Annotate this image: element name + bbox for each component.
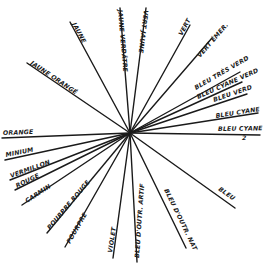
label-bleu-d-outr-nat: BLEU D'OUTR. NAT [163,187,199,252]
label-bleu: BLEU [217,185,236,201]
ray-lines [2,8,260,262]
label-pourpre: POURPRE [65,211,89,245]
label-pourpre-rouge: POURPRE ROUGE [45,178,91,231]
label-orange: ORANGE [3,128,34,136]
label-bleu-cyane-2: BLEU CYANE [218,124,263,132]
label-carmin: CARMIN [24,182,53,204]
label-vert-jaune: VERT JAUNE [137,10,150,54]
ray-bleu-cyane-2 [130,133,260,135]
ray-violet [113,133,130,258]
label-jaune: JAUNE [69,19,88,45]
ray-bleu [130,133,235,208]
label-jaune-orange: JAUNE ORANGÉ [27,58,79,97]
label-bleu-cyane: BLEU CYANE [215,105,261,119]
label-vert-emer: VERT ÉMER. [195,21,229,59]
label-subscript: 2 [242,134,247,141]
color-circle-diagram: JAUNEJAUNE VERDÂTREVERT JAUNEVERTVERT ÉM… [0,0,263,264]
label-jaune-verdatre: JAUNE VERDÂTRE [116,7,130,73]
label-bleu-d-outr-artif: BLEU D'OUTR. ARTIF [133,183,145,258]
